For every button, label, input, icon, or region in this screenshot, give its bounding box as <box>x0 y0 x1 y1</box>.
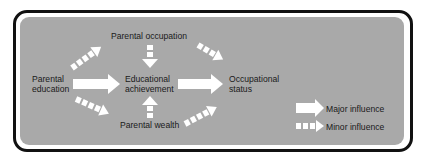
minor-arrow-occupation-to-status <box>195 40 226 65</box>
node-educational-achievement: Educational achievement <box>125 74 174 94</box>
node-label-line: Educational <box>125 74 174 84</box>
node-label-line: achievement <box>125 84 174 94</box>
legend-major-label: Major influence <box>326 104 384 114</box>
node-parental-occupation: Parental occupation <box>111 31 187 41</box>
major-arrow-achievement-to-status <box>178 74 223 94</box>
node-label-line: status <box>229 84 279 94</box>
minor-arrow-wealth-to-status <box>182 102 219 129</box>
node-label-line: Parental <box>32 74 69 84</box>
legend-minor-label: Minor influence <box>326 122 384 132</box>
minor-arrow-education-to-occupation <box>68 42 104 73</box>
legend-minor-arrow-icon <box>296 120 324 132</box>
minor-arrow-wealth-to-achievement <box>142 96 158 118</box>
legend-major-arrow-icon <box>296 99 324 117</box>
node-occupational-status: Occupational status <box>229 74 279 94</box>
node-label-line: Occupational <box>229 74 279 84</box>
minor-arrow-occupation-to-achievement <box>142 45 158 68</box>
major-arrow-education-to-achievement <box>73 74 120 94</box>
node-parental-education: Parental education <box>32 74 69 94</box>
minor-arrow-education-to-wealth <box>74 94 112 120</box>
node-parental-wealth: Parental wealth <box>120 120 179 130</box>
node-label-line: education <box>32 84 69 94</box>
